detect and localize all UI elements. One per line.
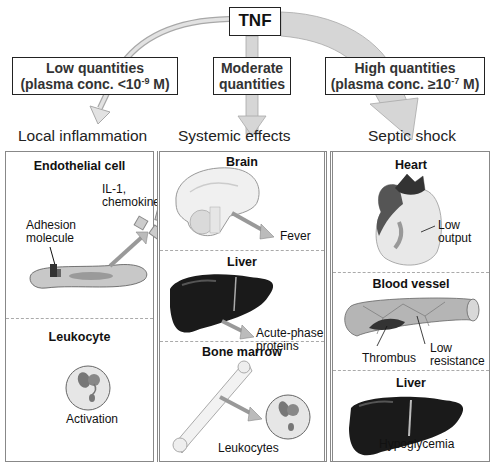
label-low-resistance-2: resistance [430,355,485,368]
liver-icon [333,392,493,471]
high-quantities-title: High quantities [326,60,484,76]
tnf-label: TNF [238,11,271,30]
column-title-systemic: Systemic effects [178,127,291,145]
section-heading-liver-septic: Liver [333,376,489,390]
high-quantities-conc: (plasma conc. ≥10-7 M) [326,76,484,92]
label-hypoglycemia: Hypoglycemia [379,438,454,451]
label-leukocytes: Leukocytes [218,442,279,455]
panel-systemic-effects: Brain Fever Liver Acute-phase proteins B… [157,151,327,462]
divider [160,341,324,342]
low-quantities-conc: (plasma conc. <10-9 M) [13,76,177,92]
moderate-quantities-box: Moderate quantities [213,57,291,95]
tnf-box: TNF [229,7,281,36]
endothelial-cell-icon [6,152,155,312]
column-title-septic: Septic shock [368,127,456,145]
section-heading-blood-vessel: Blood vessel [333,277,489,291]
high-quantities-box: High quantities (plasma conc. ≥10-7 M) [325,57,485,95]
low-quantities-title: Low quantities [13,60,177,76]
divider [333,272,489,273]
blood-vessel-icon [333,292,493,352]
liver-icon [160,267,325,357]
divider [6,318,153,319]
divider [333,370,489,371]
divider [160,250,324,251]
panel-local-inflammation: Endothelial cell IL-1, chemokines Adhesi… [5,151,154,462]
heart-icon [333,152,493,272]
label-thrombus: Thrombus [362,352,416,365]
label-activation: Activation [66,413,118,426]
label-low-output-2: output [438,232,471,245]
moderate-quantities-line2: quantities [214,76,290,92]
label-fever: Fever [280,230,311,243]
leukocyte-icon [6,362,155,442]
panel-septic-shock: Heart Low output Blood vessel Thrombus L… [330,151,490,462]
moderate-quantities-line1: Moderate [214,60,290,76]
low-quantities-box: Low quantities (plasma conc. <10-9 M) [12,57,178,95]
column-title-local: Local inflammation [18,127,147,145]
section-heading-leukocyte: Leukocyte [6,330,153,344]
